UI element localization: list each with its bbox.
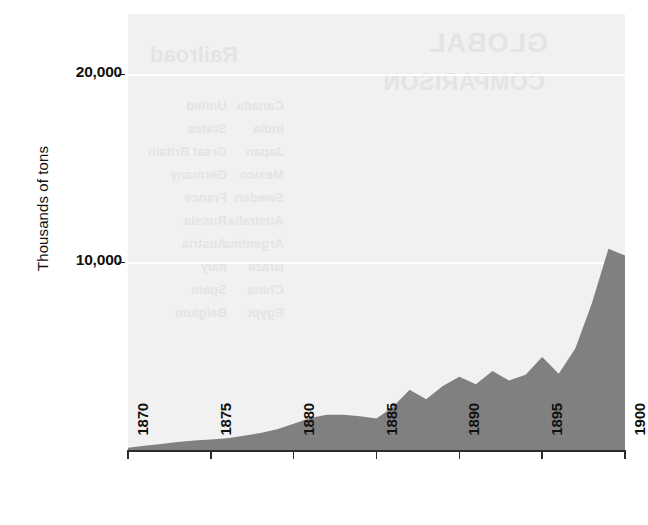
x-tick-mark-1880 xyxy=(293,450,295,459)
y-tick-mark-20000 xyxy=(118,74,125,76)
x-tick-label-1870: 1870 xyxy=(134,403,151,463)
x-tick-label-1890: 1890 xyxy=(465,403,482,463)
x-tick-mark-1895 xyxy=(541,450,543,459)
x-tick-label-1875: 1875 xyxy=(217,403,234,463)
y-tick-label-10000: 10,000 xyxy=(38,251,122,269)
y-tick-label-20000: 20,000 xyxy=(38,63,122,81)
x-tick-mark-1900 xyxy=(624,450,626,459)
x-tick-mark-1890 xyxy=(459,450,461,459)
y-tick-mark-10000 xyxy=(118,262,125,264)
x-tick-label-1880: 1880 xyxy=(300,403,317,463)
area-series xyxy=(128,14,625,450)
x-tick-label-1895: 1895 xyxy=(548,403,565,463)
x-tick-mark-1875 xyxy=(210,450,212,459)
x-tick-mark-1885 xyxy=(376,450,378,459)
x-tick-label-1885: 1885 xyxy=(383,403,400,463)
x-tick-mark-1870 xyxy=(127,450,129,459)
y-axis-ticks: 10,00020,000 xyxy=(28,0,122,525)
plot-area: GLOBAL COMPARISON Railroad UnitedStatesG… xyxy=(128,14,625,450)
x-tick-label-1900: 1900 xyxy=(631,403,648,463)
